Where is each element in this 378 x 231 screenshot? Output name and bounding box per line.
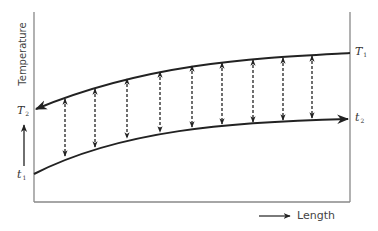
diagram-canvas bbox=[0, 0, 378, 231]
label-T2-sub: 2 bbox=[25, 110, 29, 117]
label-t2-base: t bbox=[355, 111, 359, 124]
label-t2-sub: 2 bbox=[360, 117, 364, 124]
hot-fluid-curve bbox=[36, 53, 350, 109]
counterflow-temperature-diagram: Temperature T2 t1 T1 t2 Length bbox=[0, 0, 378, 231]
label-T2: T2 bbox=[17, 104, 29, 117]
label-T1: T1 bbox=[355, 45, 367, 58]
y-axis-label-text: Temperature bbox=[17, 22, 28, 85]
y-axis-label: Temperature bbox=[15, 24, 29, 84]
x-axis-label: Length bbox=[297, 209, 335, 222]
label-T2-base: T bbox=[17, 104, 24, 117]
label-t1: t1 bbox=[17, 168, 26, 181]
heat-transfer-arrows bbox=[65, 56, 312, 156]
label-t1-base: t bbox=[17, 168, 21, 181]
label-t1-sub: 1 bbox=[22, 174, 26, 181]
label-T1-sub: 1 bbox=[363, 51, 367, 58]
label-T1-base: T bbox=[355, 45, 362, 58]
cold-fluid-curve bbox=[34, 119, 348, 174]
label-t2: t2 bbox=[355, 111, 364, 124]
